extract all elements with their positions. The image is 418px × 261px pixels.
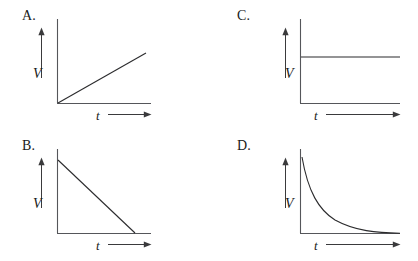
panel-d-curve	[302, 157, 400, 233]
panel-b-t-arrow-head	[144, 241, 152, 247]
panel-d-x-axis-label: t	[314, 238, 318, 254]
panel-b-v-arrow-head	[38, 158, 44, 166]
panel-d-y-axis-label: V	[285, 196, 294, 212]
panel-a-t-arrow-head	[144, 111, 152, 117]
panel-a-x-axis-label: t	[96, 108, 100, 124]
panel-a: A. V t	[0, 0, 209, 130]
panel-c-v-arrow-head	[282, 28, 288, 36]
panel-b: B. V t	[0, 130, 209, 260]
panel-c-x-axis-label: t	[314, 108, 318, 124]
panel-c-t-arrow-head	[393, 111, 401, 117]
panel-d-v-arrow-head	[282, 158, 288, 166]
panel-b-x-axis-label: t	[96, 238, 100, 254]
panel-b-letter: B.	[22, 138, 35, 154]
panel-c-letter: C.	[237, 8, 250, 24]
panel-a-letter: A.	[22, 8, 36, 24]
panel-b-curve	[58, 160, 135, 233]
panel-c: C. V t	[209, 0, 418, 130]
panel-a-v-arrow-head	[38, 28, 44, 36]
panel-a-y-axis-label: V	[33, 66, 42, 82]
panel-b-y-axis-label: V	[33, 196, 42, 212]
panel-d-letter: D.	[237, 138, 251, 154]
panel-d-t-arrow-head	[393, 241, 401, 247]
panel-a-curve	[58, 53, 146, 103]
multiple-choice-graph-figure: A. V t C. V t	[0, 0, 418, 261]
panel-d: D. V t	[209, 130, 418, 260]
panel-c-y-axis-label: V	[285, 66, 294, 82]
